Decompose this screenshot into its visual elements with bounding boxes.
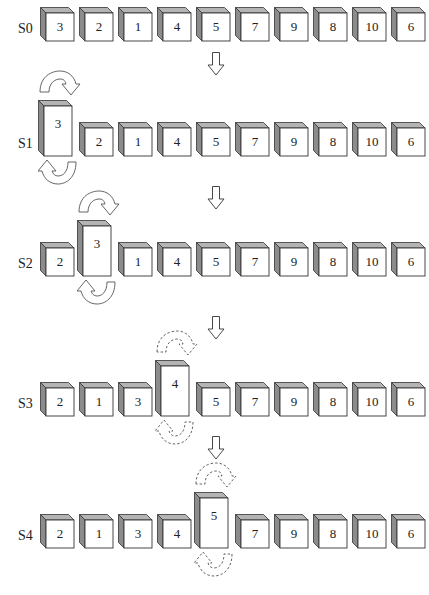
block-value: 4	[163, 19, 191, 35]
block-value: 1	[124, 19, 152, 35]
value-block: 5	[196, 122, 232, 158]
block-value: 3	[83, 236, 111, 252]
block-value: 2	[46, 254, 74, 270]
value-block: 10	[352, 242, 388, 278]
value-block: 1	[118, 122, 154, 158]
block-value: 6	[397, 19, 425, 35]
block-value: 3	[124, 526, 152, 542]
block-value: 10	[358, 254, 386, 270]
block-value: 8	[319, 254, 347, 270]
block-value: 3	[44, 116, 72, 132]
block-value: 9	[280, 254, 308, 270]
block-value: 2	[46, 394, 74, 410]
value-block: 2	[79, 7, 115, 43]
block-value: 3	[124, 394, 152, 410]
block-value: 8	[319, 19, 347, 35]
block-value: 1	[85, 526, 113, 542]
value-block: 6	[391, 514, 427, 550]
value-block: 1	[79, 514, 115, 550]
block-value: 2	[85, 19, 113, 35]
down-arrow-icon	[207, 186, 225, 214]
stage-label: S3	[18, 396, 33, 412]
block-value: 4	[161, 376, 189, 392]
value-block: 4	[157, 242, 193, 278]
swap-arrow-bottom-icon	[38, 158, 82, 190]
block-value: 9	[280, 526, 308, 542]
value-block: 7	[235, 382, 271, 418]
value-block: 1	[79, 382, 115, 418]
value-block: 7	[235, 514, 271, 550]
value-block: 10	[352, 382, 388, 418]
block-value: 4	[163, 134, 191, 150]
block-value: 2	[85, 134, 113, 150]
value-block: 9	[274, 382, 310, 418]
raised-block: 4	[155, 360, 191, 418]
value-block: 8	[313, 514, 349, 550]
block-value: 8	[319, 394, 347, 410]
stage-label: S2	[18, 256, 33, 272]
swap-arrow-top-icon	[155, 330, 199, 362]
block-value: 6	[397, 254, 425, 270]
value-block: 4	[157, 7, 193, 43]
value-block: 8	[313, 122, 349, 158]
value-block: 10	[352, 7, 388, 43]
block-value: 10	[358, 394, 386, 410]
block-value: 5	[202, 19, 230, 35]
value-block: 3	[118, 382, 154, 418]
value-block: 7	[235, 7, 271, 43]
block-value: 8	[319, 134, 347, 150]
value-block: 9	[274, 7, 310, 43]
value-block: 8	[313, 382, 349, 418]
block-value: 1	[124, 134, 152, 150]
block-value: 7	[241, 526, 269, 542]
swap-arrow-bottom-icon	[155, 418, 199, 450]
value-block: 8	[313, 7, 349, 43]
block-value: 9	[280, 19, 308, 35]
value-block: 2	[40, 382, 76, 418]
raised-block: 5	[194, 492, 230, 550]
block-value: 2	[46, 526, 74, 542]
block-value: 6	[397, 394, 425, 410]
swap-arrow-bottom-icon	[194, 550, 238, 582]
value-block: 9	[274, 242, 310, 278]
stage-label: S0	[18, 21, 33, 37]
stage-label: S4	[18, 528, 33, 544]
block-value: 7	[241, 134, 269, 150]
value-block: 2	[79, 122, 115, 158]
value-block: 2	[40, 242, 76, 278]
value-block: 3	[118, 514, 154, 550]
block-value: 4	[163, 526, 191, 542]
value-block: 5	[196, 382, 232, 418]
block-value: 9	[280, 134, 308, 150]
block-value: 5	[202, 254, 230, 270]
swap-arrow-top-icon	[38, 70, 82, 102]
swap-arrow-top-icon	[194, 462, 238, 494]
block-value: 4	[163, 254, 191, 270]
value-block: 9	[274, 514, 310, 550]
value-block: 6	[391, 382, 427, 418]
block-value: 7	[241, 19, 269, 35]
value-block: 1	[118, 242, 154, 278]
block-value: 5	[200, 508, 228, 524]
block-value: 10	[358, 134, 386, 150]
value-block: 1	[118, 7, 154, 43]
raised-block: 3	[77, 220, 113, 278]
block-value: 5	[202, 134, 230, 150]
value-block: 5	[196, 242, 232, 278]
value-block: 6	[391, 122, 427, 158]
down-arrow-icon	[207, 52, 225, 80]
block-value: 10	[358, 526, 386, 542]
block-value: 10	[358, 19, 386, 35]
block-value: 6	[397, 526, 425, 542]
swap-arrow-top-icon	[77, 190, 121, 222]
down-arrow-icon	[207, 316, 225, 344]
value-block: 8	[313, 242, 349, 278]
block-value: 1	[124, 254, 152, 270]
stage-label: S1	[18, 136, 33, 152]
block-value: 8	[319, 526, 347, 542]
block-value: 6	[397, 134, 425, 150]
block-value: 7	[241, 394, 269, 410]
value-block: 2	[40, 514, 76, 550]
block-value: 5	[202, 394, 230, 410]
value-block: 4	[157, 514, 193, 550]
